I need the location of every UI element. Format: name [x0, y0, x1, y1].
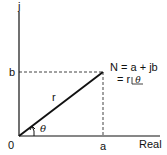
angle-label: θ — [40, 123, 46, 134]
equation-line-1: N = a + jb — [110, 62, 158, 73]
equation-line-2: = r θ — [117, 74, 141, 86]
magnitude-label: r — [52, 92, 56, 103]
phasor-diagram — [0, 0, 167, 155]
equation-line-2-prefix: = r — [117, 73, 133, 85]
x-tick-label: a — [100, 141, 106, 152]
real-axis-label: Real — [139, 139, 162, 150]
equation-angle: θ — [135, 75, 140, 85]
origin-label: 0 — [8, 140, 14, 151]
y-tick-label: b — [9, 67, 15, 78]
imaginary-axis-label: j — [18, 1, 20, 12]
